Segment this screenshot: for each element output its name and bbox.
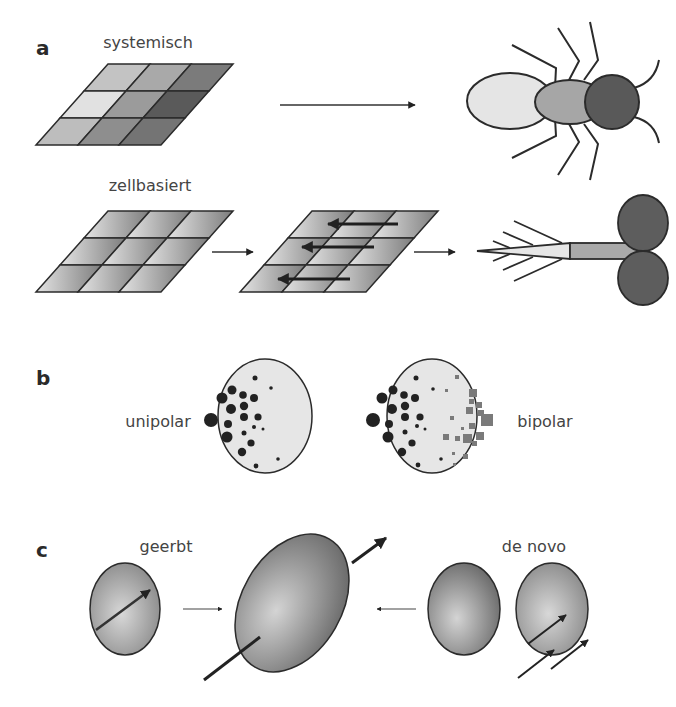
- unipolar-caption: unipolar: [125, 412, 191, 431]
- panel-label-a: a: [36, 36, 50, 60]
- cell-unipolar: [204, 359, 312, 473]
- cell-based-grid: [36, 211, 233, 292]
- systemic-grid: [36, 64, 233, 145]
- inherited-caption: geerbt: [140, 537, 193, 556]
- panel-label-b: b: [36, 366, 50, 390]
- systemic-title: systemisch: [103, 33, 193, 52]
- panel-label-c: c: [36, 538, 48, 562]
- diagram-canvas: [0, 0, 676, 707]
- neuron-icon: [477, 195, 668, 305]
- cell-de-novo-right: [516, 563, 588, 678]
- cell-inherited-left: [90, 563, 160, 655]
- cell-de-novo-left: [428, 563, 500, 655]
- cell-bipolar: [366, 359, 493, 473]
- cell-based-title: zellbasiert: [109, 176, 192, 195]
- cell-polarized-center: [204, 514, 386, 692]
- insect-icon: [467, 22, 659, 180]
- figure-root: a systemisch zellbasiert b unipolar bipo…: [0, 0, 676, 707]
- bipolar-caption: bipolar: [517, 412, 572, 431]
- de-novo-caption: de novo: [502, 537, 566, 556]
